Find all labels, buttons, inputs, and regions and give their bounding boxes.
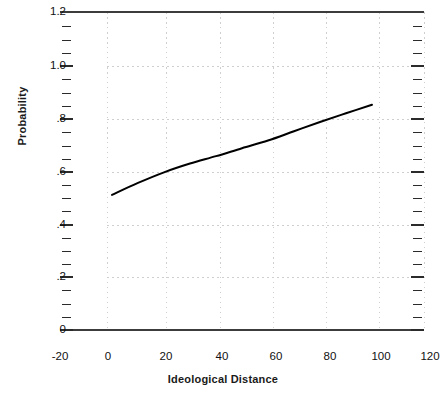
x-tick-80: 80 [304,350,356,363]
axis-frame [60,12,424,330]
y-tick-0-4: .4 [26,218,66,230]
horizontal-gridlines [107,66,424,277]
x-tick-40: 40 [196,350,248,363]
plot-area [0,0,446,399]
y-tick-1-0: 1.0 [26,59,66,71]
y-tick-0-8: .8 [26,112,66,124]
x-tick-100: 100 [355,350,407,363]
x-tick-60: 60 [250,350,302,363]
y-axis-ticks-right [411,26,424,330]
y-tick-0-6: .6 [26,165,66,177]
x-axis-title: Ideological Distance [0,373,446,385]
y-tick-0: 0 [26,323,66,335]
x-tick-minus-20: -20 [34,350,86,363]
y-tick-0-2: .2 [26,270,66,282]
vertical-gridlines [107,12,424,330]
y-axis-title: Probability [16,46,28,186]
x-tick-0: 0 [82,350,134,363]
probability-vs-ideological-distance-chart: 1.2 1.0 .8 .6 .4 .2 0 -20 0 20 40 60 80 … [0,0,446,399]
y-tick-1-2: 1.2 [26,5,66,17]
x-tick-120: 120 [404,350,446,363]
x-tick-20: 20 [140,350,192,363]
data-series-line [112,105,372,195]
